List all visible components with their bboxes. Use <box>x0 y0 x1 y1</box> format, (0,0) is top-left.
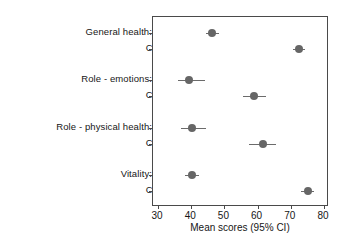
y-axis-tick <box>149 128 153 129</box>
y-axis-tick <box>149 175 153 176</box>
x-axis-tick-label: 60 <box>242 210 272 221</box>
x-axis-tick-label: 40 <box>175 210 205 221</box>
plot-area <box>152 16 328 206</box>
data-point-marker <box>185 76 193 84</box>
x-axis-tick <box>224 205 225 209</box>
x-axis-title: Mean scores (95% CI) <box>152 222 328 234</box>
dot-plot-figure: CasesGeneral health:ControlsCasesRole - … <box>0 0 338 237</box>
y-axis-tick <box>149 96 153 97</box>
data-point-marker <box>304 187 312 195</box>
x-axis-tick <box>258 205 259 209</box>
x-axis-tick <box>158 205 159 209</box>
data-point-marker <box>250 92 258 100</box>
data-point-marker <box>208 29 216 37</box>
y-axis-group-label: Vitality: <box>121 169 152 179</box>
y-axis-tick <box>149 80 153 81</box>
y-axis-group-label: Role - emotions: <box>81 74 152 84</box>
x-axis-tick-label: 70 <box>275 210 305 221</box>
x-axis-tick-label: 30 <box>142 210 172 221</box>
y-axis-tick <box>149 144 153 145</box>
x-axis-tick-label: 80 <box>308 210 338 221</box>
data-point-marker <box>188 124 196 132</box>
data-point-marker <box>295 45 303 53</box>
y-axis-tick <box>149 191 153 192</box>
data-point-marker <box>188 171 196 179</box>
y-axis-tick <box>149 33 153 34</box>
x-axis-tick <box>291 205 292 209</box>
y-axis-group-label: General health: <box>86 27 152 37</box>
y-axis-group-label: Role - physical health: <box>56 122 152 132</box>
y-axis-tick <box>149 49 153 50</box>
data-point-marker <box>259 140 267 148</box>
x-axis-tick <box>324 205 325 209</box>
x-axis-tick <box>191 205 192 209</box>
x-axis-tick-label: 50 <box>208 210 238 221</box>
